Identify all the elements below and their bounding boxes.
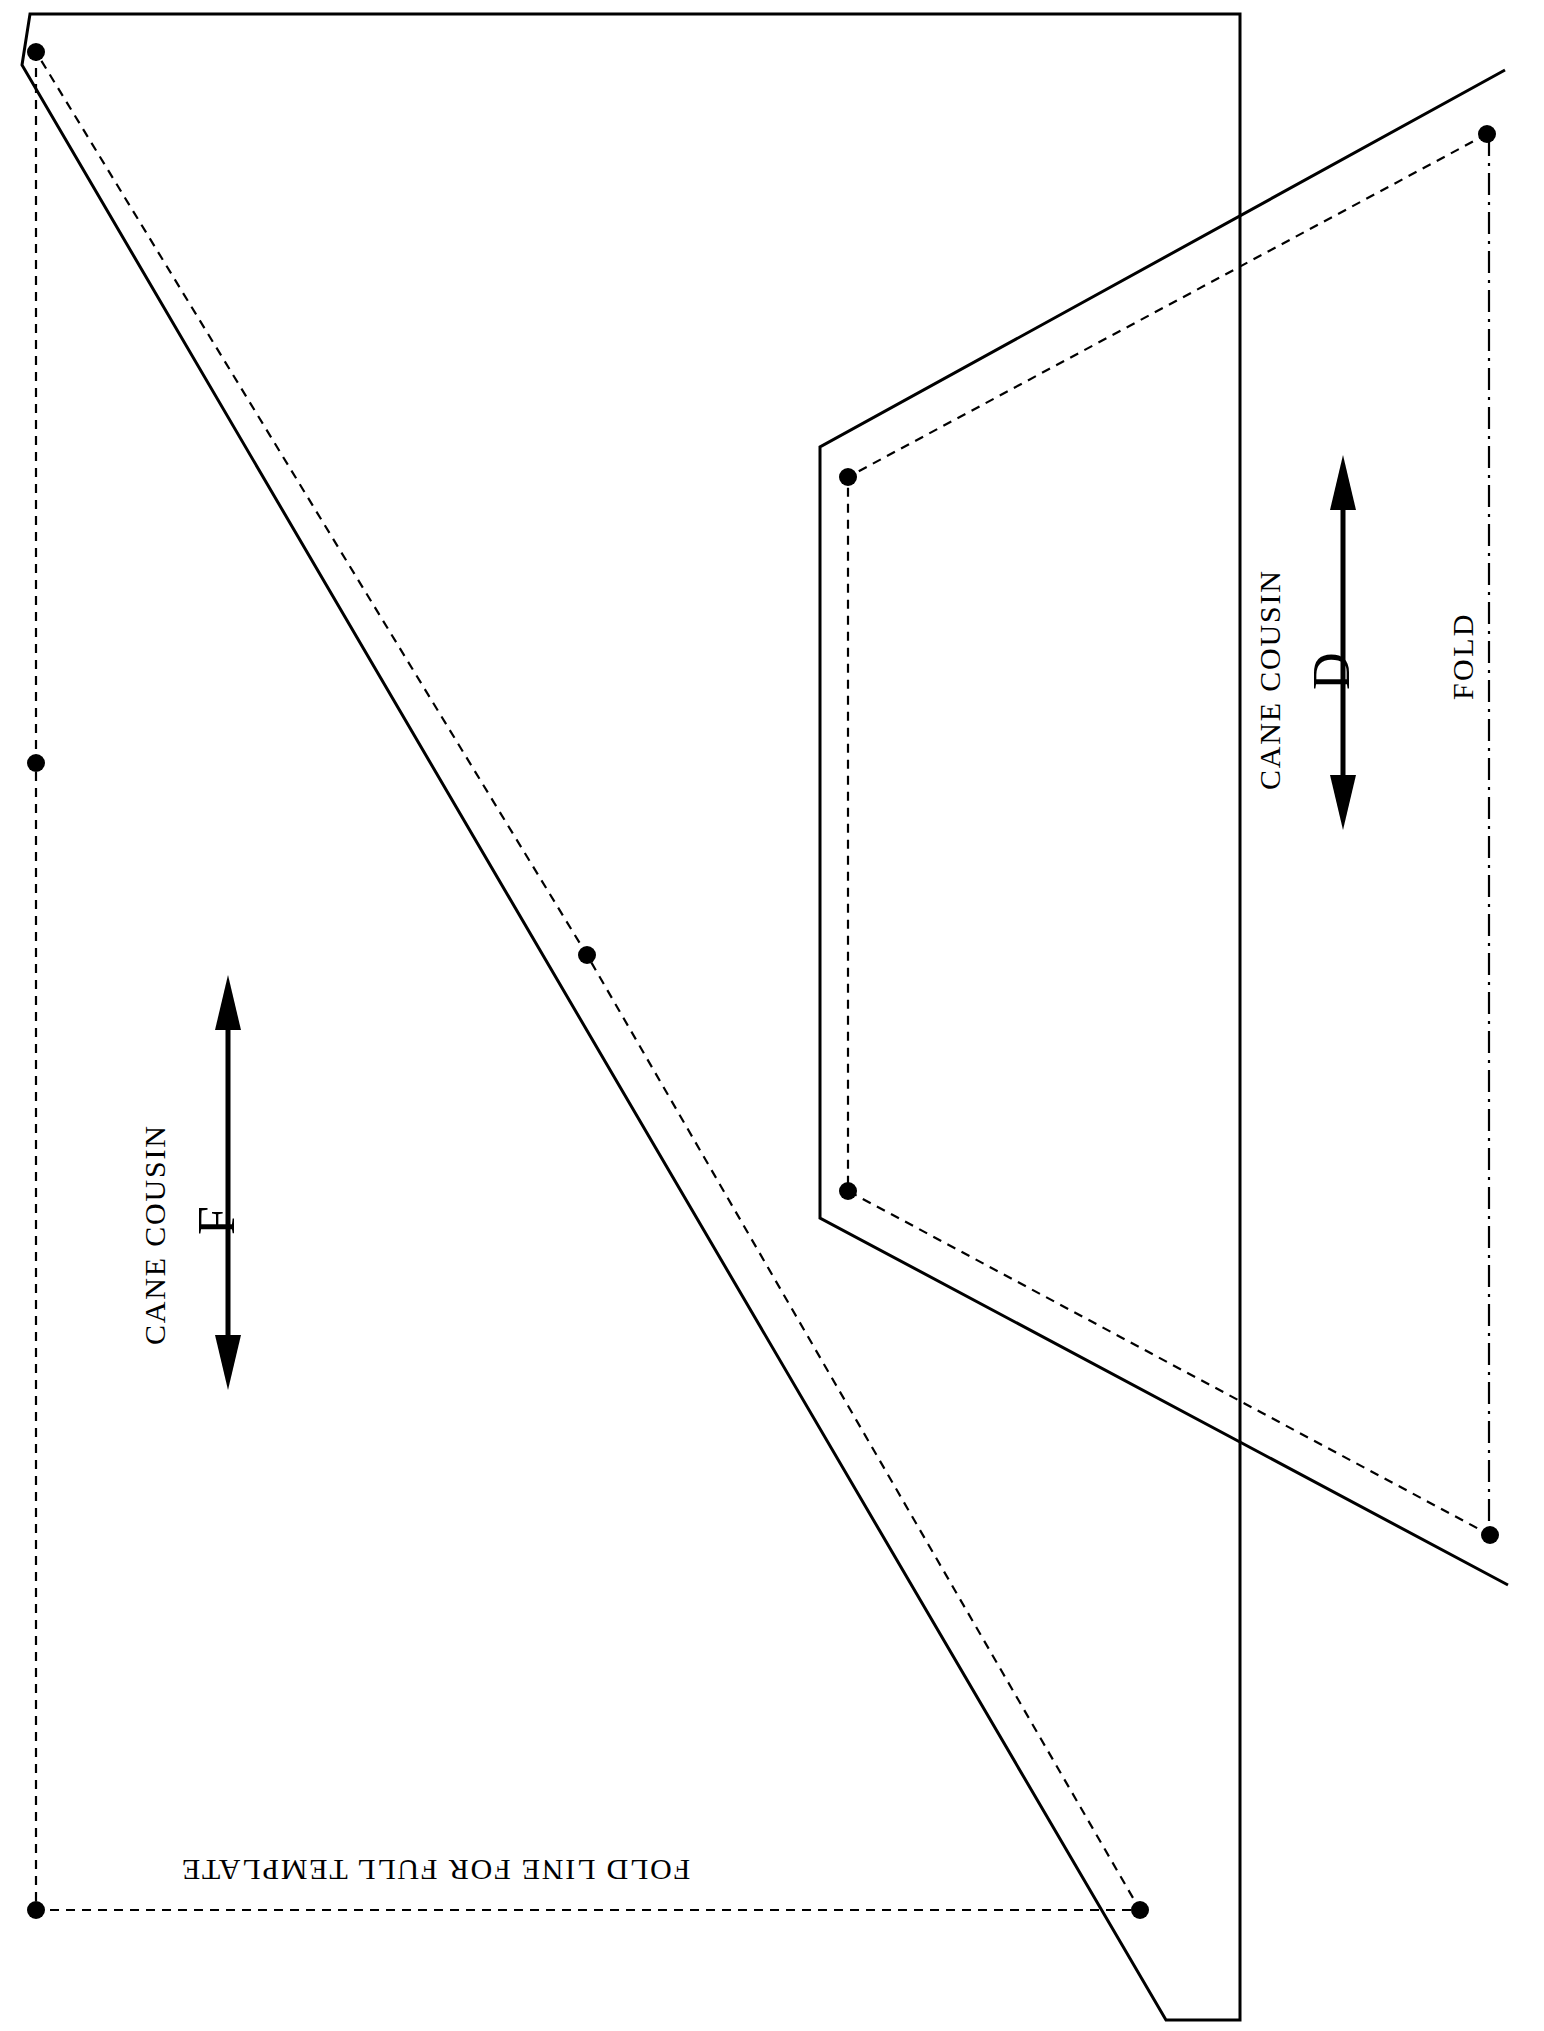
piece-f-sew-line xyxy=(36,52,1140,1910)
piece-d-sew-line xyxy=(848,134,1490,1535)
piece-d-letter: D xyxy=(1305,651,1360,690)
piece-f-foldline-label: FOLD LINE FOR FULL TEMPLATE xyxy=(180,1855,690,1885)
template-sheet-page: CANE COUSIN F FOLD LINE FOR FULL TEMPLAT… xyxy=(0,0,1544,2031)
piece-d-corner-dots xyxy=(839,125,1499,1544)
piece-f-title: CANE COUSIN xyxy=(140,1124,170,1345)
template-drawing-canvas xyxy=(0,0,1544,2031)
piece-d-fold-label: FOLD xyxy=(1448,612,1478,700)
piece-d-grain-arrow xyxy=(1330,455,1356,830)
piece-d-title: CANE COUSIN xyxy=(1255,569,1285,790)
piece-f-corner-dots xyxy=(27,43,1149,1919)
piece-f-grain-arrow xyxy=(215,975,241,1390)
piece-d-cut-line xyxy=(820,70,1508,1585)
piece-f-letter: F xyxy=(190,1205,245,1235)
